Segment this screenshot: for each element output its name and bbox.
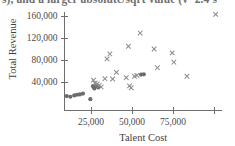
scatter-plot-canvas: 40,00080,000120,000160,000 25,00050,0007… [0,0,235,146]
y-tick-label: 120,000 [27,33,58,43]
data-point-cross [138,31,143,36]
data-point-cross [129,85,134,90]
data-point-cross [185,74,190,79]
data-point-dot [142,72,146,76]
y-tick-label: 40,000 [31,77,57,87]
data-point-cross [103,76,108,81]
data-point-dot [81,91,85,95]
data-point-cross [213,12,218,17]
x-axis: 25,00050,00075,000 [65,107,223,127]
data-point-cross [114,70,119,75]
x-axis-title: Talent Cost [119,132,167,143]
data-point-dot [88,97,92,101]
y-axis: 40,00080,000120,000160,000 [27,11,68,110]
series-cross [91,12,218,90]
data-point-cross [108,52,113,57]
data-point-cross [110,77,115,82]
y-tick-label: 80,000 [31,55,57,65]
y-axis-title: Total Revenue [7,18,18,79]
data-point-cross [152,47,157,52]
data-point-dot [65,94,69,98]
x-tick-label: 25,000 [78,117,104,127]
data-point-cross [124,75,129,80]
data-point-cross [155,65,160,70]
data-point-cross [126,44,131,49]
x-tick-label: 75,000 [160,117,186,127]
data-point-cross [170,51,175,56]
data-points-layer [65,12,218,101]
x-tick-label: 50,000 [119,117,145,127]
scatter-chart-figure: s), and a larger absolute/sqrt value (v=… [0,0,235,146]
data-point-dot [68,95,72,99]
data-point-cross [105,57,110,62]
y-tick-label: 160,000 [27,11,58,21]
data-point-cross [172,60,177,65]
